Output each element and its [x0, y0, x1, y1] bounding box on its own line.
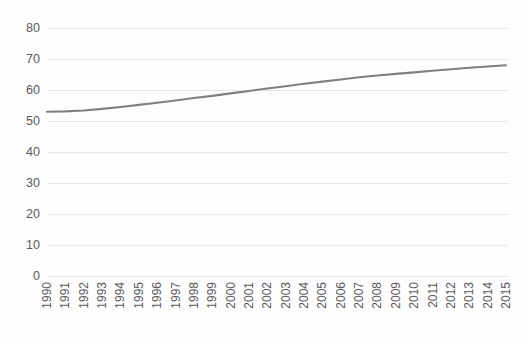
x-tick-label-2005: 2005 — [316, 282, 328, 309]
gridline-20 — [47, 214, 508, 215]
line-chart: 01020304050607080 1990199119921993199419… — [0, 0, 526, 340]
plot-area — [47, 28, 508, 276]
x-tick-label-2000: 2000 — [225, 282, 237, 309]
x-tick-label-2015: 2015 — [500, 282, 512, 309]
x-tick-label-2006: 2006 — [335, 282, 347, 309]
x-tick-label-1993: 1993 — [96, 282, 108, 309]
gridline-30 — [47, 183, 508, 184]
x-tick-label-1998: 1998 — [188, 282, 200, 309]
x-tick-label-1990: 1990 — [41, 282, 53, 309]
y-tick-label-30: 30 — [26, 177, 40, 190]
gridline-70 — [47, 59, 508, 60]
gridline-60 — [47, 90, 508, 91]
y-tick-label-70: 70 — [26, 53, 40, 66]
y-tick-label-40: 40 — [26, 146, 40, 159]
gridline-50 — [47, 121, 508, 122]
x-tick-label-2010: 2010 — [408, 282, 420, 309]
x-tick-label-2007: 2007 — [353, 282, 365, 309]
x-tick-label-1996: 1996 — [151, 282, 163, 309]
x-tick-label-2009: 2009 — [390, 282, 402, 309]
x-tick-label-2012: 2012 — [445, 282, 457, 309]
gridline-40 — [47, 152, 508, 153]
x-tick-label-2011: 2011 — [427, 282, 439, 308]
y-tick-label-0: 0 — [33, 270, 40, 283]
x-tick-label-2014: 2014 — [482, 282, 494, 309]
y-tick-label-80: 80 — [26, 22, 40, 35]
y-tick-label-60: 60 — [26, 84, 40, 97]
x-tick-label-2008: 2008 — [371, 282, 383, 309]
x-tick-label-1991: 1991 — [59, 282, 71, 309]
x-tick-label-1997: 1997 — [170, 282, 182, 309]
y-tick-label-50: 50 — [26, 115, 40, 128]
x-axis: 1990199119921993199419951996199719981999… — [0, 282, 526, 340]
gridline-10 — [47, 245, 508, 246]
gridline-80 — [47, 28, 508, 29]
x-tick-label-2003: 2003 — [280, 282, 292, 309]
x-tick-label-1992: 1992 — [78, 282, 90, 309]
x-tick-label-2013: 2013 — [463, 282, 475, 309]
x-tick-label-1994: 1994 — [114, 282, 126, 309]
x-tick-label-1999: 1999 — [206, 282, 218, 309]
x-tick-label-2002: 2002 — [261, 282, 273, 309]
y-tick-label-20: 20 — [26, 208, 40, 221]
x-tick-label-2001: 2001 — [243, 282, 255, 309]
gridline-0 — [47, 276, 508, 277]
y-tick-label-10: 10 — [26, 239, 40, 252]
x-tick-label-2004: 2004 — [298, 282, 310, 309]
x-tick-label-1995: 1995 — [133, 282, 145, 309]
